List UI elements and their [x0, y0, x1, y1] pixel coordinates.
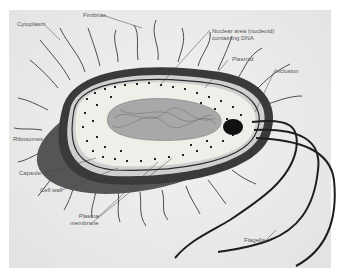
label-inclusion: Inclusion	[275, 68, 299, 75]
label-plasma-membrane-line2: membrane	[70, 220, 99, 227]
label-plasmid: Plasmid	[232, 56, 253, 63]
bacterium-illustration	[0, 0, 349, 277]
label-cell-wall: Cell wall	[40, 187, 62, 194]
label-fimbriae: Fimbriae	[83, 12, 106, 19]
label-plasma-membrane: Plasma membrane	[70, 213, 99, 227]
label-capsule: Capsule	[19, 170, 41, 177]
label-cytoplasm: Cytoplasm	[17, 21, 45, 28]
label-nucleoid-line2: containing DNA	[212, 35, 274, 42]
label-nucleoid: Nuclear area (nucleoid) containing DNA	[212, 28, 274, 42]
label-nucleoid-line1: Nuclear area (nucleoid)	[212, 28, 274, 35]
label-flagella: Flagella	[244, 237, 265, 244]
label-plasma-membrane-line1: Plasma	[70, 213, 99, 220]
inclusion-icon	[223, 119, 243, 135]
label-ribosomes: Ribosomes	[13, 136, 43, 143]
